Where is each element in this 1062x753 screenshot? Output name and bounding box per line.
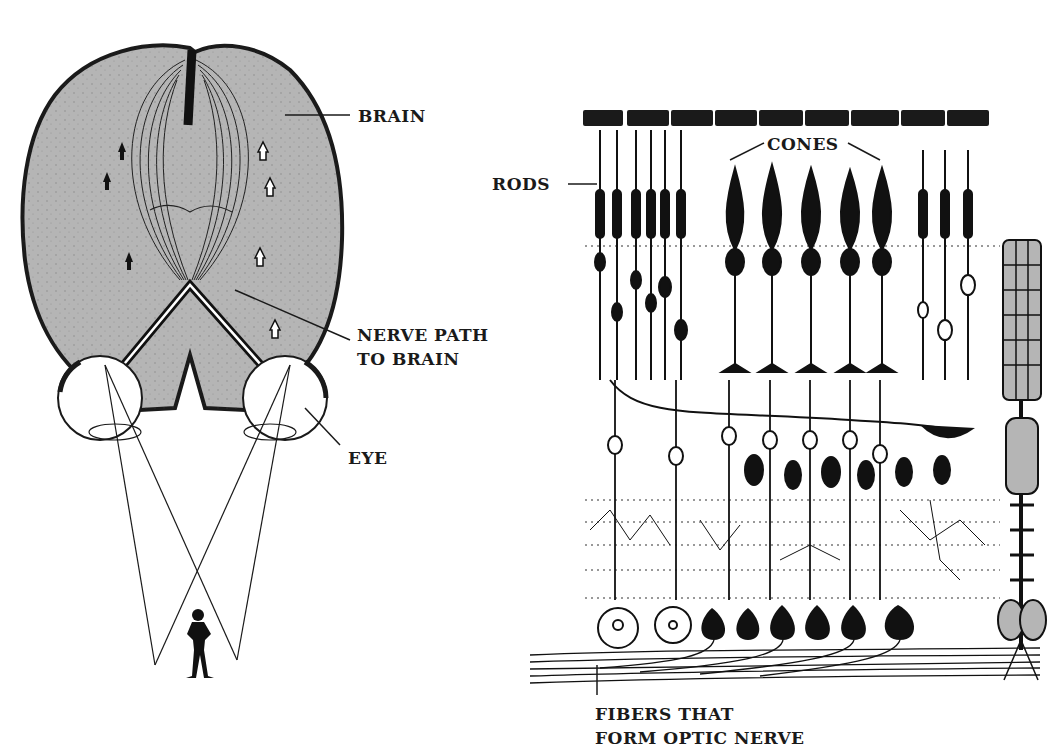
label-nerve-path-line2: TO BRAIN: [357, 347, 460, 371]
cone-cells: [722, 165, 895, 372]
glial-column: [998, 240, 1046, 680]
person-figure: [186, 609, 214, 678]
retina-diagram: [530, 110, 1046, 695]
rod-cells: [595, 130, 975, 380]
label-fibers-line1: FIBERS THAT: [595, 702, 734, 726]
label-eye: EYE: [348, 446, 388, 470]
label-cones: CONES: [767, 132, 839, 156]
visual-system-illustration: [0, 0, 1062, 753]
label-brain: BRAIN: [358, 104, 426, 128]
label-nerve-path-line1: NERVE PATH: [357, 323, 489, 347]
label-fibers-line2: FORM OPTIC NERVE: [595, 726, 805, 750]
right-eye: [243, 356, 327, 440]
left-eye: [58, 356, 142, 440]
brain-diagram: [23, 45, 350, 678]
label-rods: RODS: [492, 172, 550, 196]
